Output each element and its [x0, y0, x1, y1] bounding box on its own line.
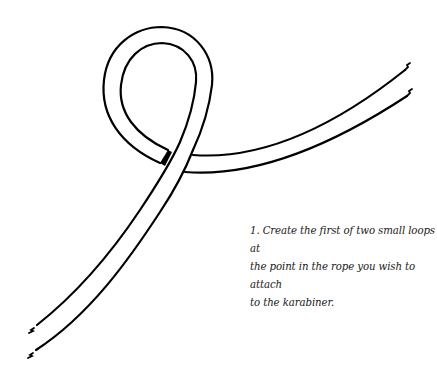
end-mark-arm-lower — [407, 89, 412, 96]
end-mark-strand-right — [28, 353, 33, 358]
crossing-shadow — [160, 150, 172, 166]
rope-loop-diagram — [0, 0, 437, 385]
strand-right-edge — [36, 150, 193, 350]
arm-upper-edge — [193, 70, 405, 156]
end-mark-arm-upper — [405, 63, 410, 70]
caption-line: 1. Create the first of two small loops a… — [250, 222, 435, 258]
end-mark-strand-left — [29, 328, 34, 333]
arm-lower-edge — [185, 96, 407, 173]
step-caption: 1. Create the first of two small loops a… — [250, 222, 435, 312]
caption-line: to the karabiner. — [250, 294, 435, 312]
caption-line: the point in the rope you wish to attach — [250, 258, 435, 294]
loop-inner-edge — [121, 43, 197, 150]
strand-left-edge — [37, 142, 180, 325]
